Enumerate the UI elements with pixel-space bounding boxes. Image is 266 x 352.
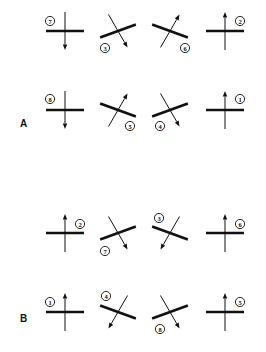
crossing-symbol: 1 xyxy=(206,91,245,129)
circled-number: 1 xyxy=(235,94,244,103)
arrow-head-icon xyxy=(123,42,128,48)
arrow-head-icon xyxy=(63,214,67,220)
arrow-head-icon xyxy=(161,244,166,250)
panel-b: B27361485 xyxy=(20,213,245,333)
circled-number: 5 xyxy=(125,121,134,130)
arrow-head-icon xyxy=(175,121,180,127)
crossing-symbol: 3 xyxy=(100,15,136,53)
arrow-head-icon xyxy=(63,45,67,51)
circled-number: 1 xyxy=(45,297,54,306)
arrow-head-icon xyxy=(223,293,227,299)
sequence-number: 2 xyxy=(238,18,241,25)
circled-number: 3 xyxy=(100,43,109,52)
circled-number: 2 xyxy=(235,16,244,25)
arrow-head-icon xyxy=(223,12,227,18)
arrow-head-icon xyxy=(123,94,128,100)
circled-number: 2 xyxy=(75,219,84,228)
crossing-symbol: 7 xyxy=(45,12,84,50)
crossing-diagram: A73628541B27361485 xyxy=(0,0,266,352)
circled-number: 4 xyxy=(101,291,110,300)
arrow-head-icon xyxy=(63,293,67,299)
panel-a: A73628541 xyxy=(20,12,245,131)
crossing-symbol: 4 xyxy=(152,94,188,131)
crossing-symbol: 3 xyxy=(152,213,188,249)
arrow-head-icon xyxy=(175,15,180,21)
crossing-symbol: 8 xyxy=(45,91,84,129)
arrow-head-icon xyxy=(63,124,67,130)
arrow-head-icon xyxy=(175,323,180,329)
arrow-head-icon xyxy=(223,214,227,220)
crossing-symbol: 8 xyxy=(152,296,188,334)
crossing-symbol: 6 xyxy=(152,15,189,53)
sequence-number: 1 xyxy=(48,299,51,306)
circled-number: 7 xyxy=(100,246,109,255)
panel-letter: A xyxy=(20,118,27,129)
circled-number: 8 xyxy=(155,324,164,333)
arrow-head-icon xyxy=(123,244,128,250)
crossing-symbol: 1 xyxy=(45,293,84,331)
crossing-symbol: 5 xyxy=(100,94,136,131)
arrow-head-icon xyxy=(223,91,227,97)
sequence-number: 1 xyxy=(238,96,241,103)
crossing-symbol: 2 xyxy=(46,214,85,252)
crossing-symbol: 7 xyxy=(100,217,136,256)
sequence-number: 2 xyxy=(78,221,81,228)
circled-number: 8 xyxy=(45,94,54,103)
circled-number: 6 xyxy=(235,219,244,228)
circled-number: 7 xyxy=(45,16,54,25)
crossing-symbol: 4 xyxy=(100,291,136,328)
circled-number: 5 xyxy=(235,297,244,306)
crossing-symbol: 6 xyxy=(206,214,245,252)
panel-letter: B xyxy=(20,313,27,324)
arrow-head-icon xyxy=(109,323,114,329)
circled-number: 3 xyxy=(154,213,163,222)
circled-number: 6 xyxy=(180,43,189,52)
crossing-symbol: 5 xyxy=(206,293,245,331)
circled-number: 4 xyxy=(155,121,164,130)
crossing-symbol: 2 xyxy=(206,12,245,50)
